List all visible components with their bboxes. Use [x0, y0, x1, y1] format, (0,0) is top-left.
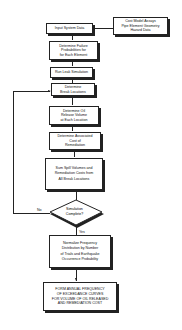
connector — [74, 151, 75, 157]
node-run-leak-simulation: Run Leak Simulation — [50, 67, 93, 78]
node-simulation-complete: Simulation Complete? — [48, 198, 101, 225]
node-input-system-data: Input System Data — [46, 23, 93, 34]
connector — [72, 34, 73, 40]
node-determine-break-locations: Determine Break Locations — [51, 83, 95, 96]
connector — [72, 96, 73, 105]
node-determine-remediation-cost: Determine Associated Cost of Remediation — [49, 132, 101, 150]
label-yes: Yes — [79, 230, 85, 234]
connector — [72, 60, 73, 66]
node-normalize-frequency: Normalize Frequency Distribution by Numb… — [49, 235, 111, 268]
node-form-exceedance-curves: FORM ANNUAL FREQUENCY OF EXCEEDANCE CURV… — [43, 282, 117, 311]
node-determine-oil-release: Determine Oil Release Volume at Each Loc… — [49, 106, 99, 125]
label-no: No — [37, 208, 42, 212]
connector-costmodel-input — [95, 28, 113, 29]
loop-connector-h-bottom — [13, 213, 50, 214]
arrowhead — [75, 278, 77, 281]
node-sum-spill-volumes: Sum Spill Volumes and Remediation Costs … — [45, 158, 103, 190]
connector — [72, 125, 73, 131]
node-determine-failure: Determine Failure Probabilities for for … — [49, 41, 98, 60]
node-cost-model-data: Cost Model Assays Pipe Element Geometry … — [113, 17, 168, 35]
loop-connector-h-top — [13, 91, 50, 92]
loop-connector-v — [13, 91, 14, 214]
